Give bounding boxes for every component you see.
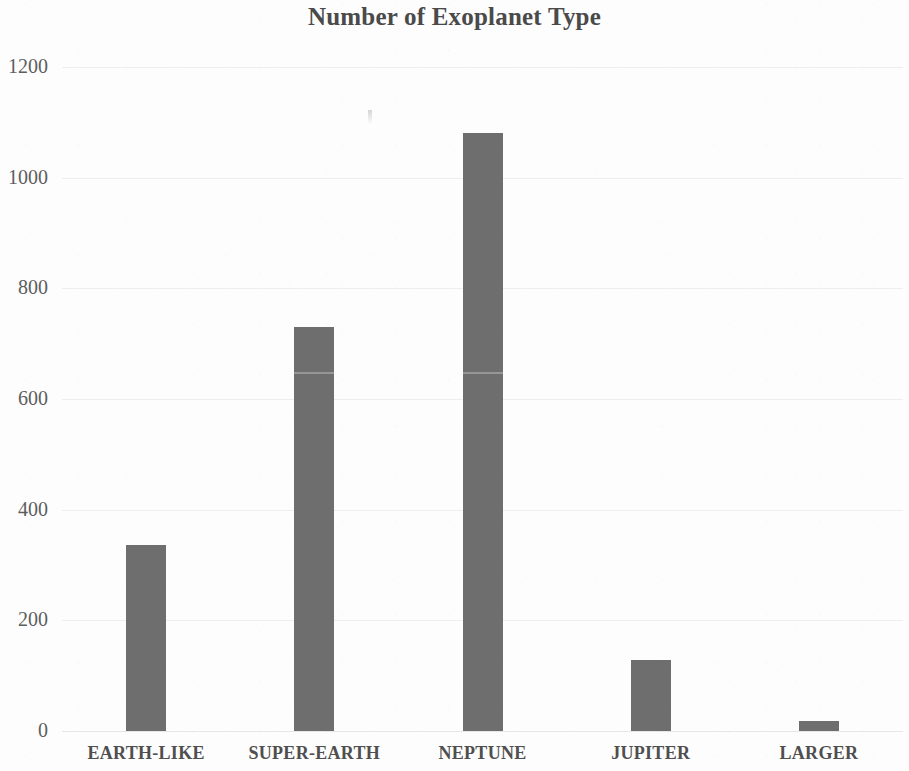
bar-earth-like [126, 545, 166, 731]
bar-super-earth [294, 327, 334, 731]
y-axis-tick-label: 800 [18, 277, 48, 297]
y-axis-tick-label: 600 [18, 388, 48, 408]
bar-larger [799, 721, 839, 731]
y-axis-tick-label: 1200 [8, 56, 48, 76]
x-axis-category-label: JUPITER [567, 741, 735, 765]
x-axis-category-label: LARGER [735, 741, 903, 765]
y-axis: 020040060080010001200 [0, 0, 58, 771]
y-axis-tick-label: 0 [38, 720, 48, 740]
x-axis-category-label: NEPTUNE [398, 741, 566, 765]
x-axis-category-label: SUPER-EARTH [230, 741, 398, 765]
y-axis-tick-label: 200 [18, 609, 48, 629]
bar-neptune [463, 133, 503, 731]
bar-chart: Number of Exoplanet Type 020040060080010… [0, 0, 909, 771]
bar-jupiter [631, 660, 671, 731]
x-axis-category-label: EARTH-LIKE [62, 741, 230, 765]
bar-series [62, 0, 903, 771]
y-axis-tick-label: 400 [18, 499, 48, 519]
y-axis-tick-label: 1000 [8, 167, 48, 187]
x-axis: EARTH-LIKESUPER-EARTHNEPTUNEJUPITERLARGE… [62, 741, 903, 771]
